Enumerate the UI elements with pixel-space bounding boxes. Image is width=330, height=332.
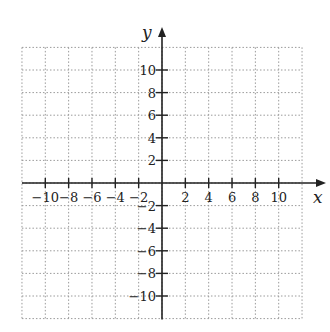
- x-tick-label: −8: [59, 190, 78, 205]
- axes: [22, 27, 326, 320]
- x-tick-label: 4: [205, 190, 213, 205]
- x-tick-label: 2: [181, 190, 189, 205]
- y-tick-label: 2: [148, 153, 156, 168]
- y-tick-label: −2: [137, 199, 156, 214]
- x-tick-label: −6: [82, 190, 101, 205]
- y-tick-label: −6: [137, 244, 156, 259]
- x-tick-label: 10: [270, 190, 287, 205]
- y-tick-label: −4: [137, 221, 156, 236]
- y-axis-arrow-icon: [158, 27, 166, 37]
- y-tick-label: 10: [139, 63, 156, 78]
- y-tick-label: 8: [148, 86, 156, 101]
- y-tick-label: −10: [129, 289, 156, 304]
- x-tick-label: −4: [106, 190, 125, 205]
- y-tick-label: 4: [148, 131, 156, 146]
- x-axis-label: x: [313, 187, 323, 207]
- y-tick-label: −8: [137, 266, 156, 281]
- y-axis-label: y: [141, 22, 152, 42]
- x-axis-arrow-icon: [316, 179, 326, 187]
- x-tick-label: 6: [228, 190, 236, 205]
- y-tick-label: 6: [148, 108, 156, 123]
- x-tick-label: 8: [251, 190, 259, 205]
- x-tick-label: −10: [32, 190, 59, 205]
- coordinate-plane: −10−8−6−4−2246810108642−2−4−6−8−10 y x: [0, 0, 330, 332]
